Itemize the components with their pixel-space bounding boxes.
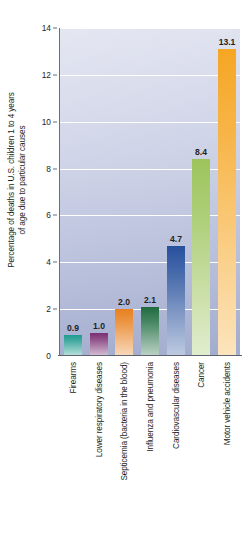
category-label-text: Motor vehicle accidents: [223, 362, 232, 445]
y-tick-mark-8: [53, 168, 57, 169]
y-axis-title: Percentage of deaths in U.S. children 1 …: [0, 0, 34, 360]
category-label: Motor vehicle accidents: [218, 358, 236, 548]
bar: 8.4: [192, 159, 210, 356]
bar-value-label: 2.1: [144, 295, 156, 305]
bar: 2.1: [141, 307, 159, 356]
bar-value-label: 4.7: [170, 234, 182, 244]
y-tick-label-6: 6: [46, 210, 51, 220]
y-tick-mark-6: [53, 215, 57, 216]
category-label: Cardiovascular diseases: [167, 358, 185, 548]
bar: 2.0: [115, 309, 133, 356]
y-axis-title-line-1: Percentage of deaths in U.S. children 1 …: [7, 92, 18, 268]
gridline-6: [60, 215, 240, 216]
bar: 4.7: [167, 246, 185, 356]
category-label-text: Firearms: [69, 362, 78, 394]
y-tick-mark-14: [53, 28, 57, 29]
gridline-14: [60, 28, 240, 29]
y-tick-label-12: 12: [42, 70, 51, 80]
y-tick-mark-4: [53, 262, 57, 263]
category-label: Lower respiratory diseases: [90, 358, 108, 548]
category-label: Influenza and pneumonia: [141, 358, 159, 548]
category-label: Septicemia (bacteria in the blood): [115, 358, 133, 548]
bar-value-label: 8.4: [195, 147, 207, 157]
y-tick-label-14: 14: [42, 23, 51, 33]
gridline-8: [60, 169, 240, 170]
bar-value-label: 13.1: [219, 37, 236, 47]
y-tick-label-4: 4: [46, 257, 51, 267]
gridline-10: [60, 122, 240, 123]
category-label-text: Cancer: [197, 362, 206, 388]
bar: 13.1: [218, 49, 236, 356]
category-label: Firearms: [64, 358, 82, 548]
category-label-text: Influenza and pneumonia: [146, 362, 155, 452]
y-tick-label-8: 8: [46, 164, 51, 174]
category-label-text: Lower respiratory diseases: [95, 362, 104, 457]
category-label-text: Septicemia (bacteria in the blood): [120, 362, 129, 481]
y-tick-mark-10: [53, 121, 57, 122]
y-tick-mark-12: [53, 74, 57, 75]
category-label: Cancer: [192, 358, 210, 548]
plot-area: 0.91.02.02.14.78.413.1: [60, 28, 240, 356]
y-tick-mark-2: [53, 309, 57, 310]
y-axis-title-line-2: of age due to particular causes: [17, 92, 28, 268]
x-axis-category-labels: FirearmsLower respiratory diseasesSeptic…: [60, 358, 240, 551]
bar: 1.0: [90, 333, 108, 356]
bar-value-label: 0.9: [67, 323, 79, 333]
x-axis-line: [58, 355, 242, 356]
y-axis-tick-labels: 14121086420: [34, 0, 57, 370]
y-tick-label-2: 2: [46, 304, 51, 314]
y-tick-label-10: 10: [42, 117, 51, 127]
category-label-text: Cardiovascular diseases: [172, 362, 181, 449]
bar: 0.9: [64, 335, 82, 356]
y-tick-label-0: 0: [46, 351, 51, 361]
gridline-12: [60, 75, 240, 76]
gridline-4: [60, 262, 240, 263]
bar-value-label: 1.0: [93, 321, 105, 331]
bar-chart-figure: Percentage of deaths in U.S. children 1 …: [0, 0, 251, 551]
bar-value-label: 2.0: [118, 297, 130, 307]
